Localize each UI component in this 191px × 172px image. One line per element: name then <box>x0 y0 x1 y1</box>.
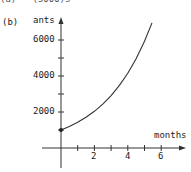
initial-point-marker <box>59 128 63 132</box>
growth-curve <box>61 23 152 130</box>
x-axis-arrow-icon <box>179 146 186 151</box>
chart-plot-area <box>0 0 191 172</box>
y-axis-arrow-icon <box>59 17 64 24</box>
